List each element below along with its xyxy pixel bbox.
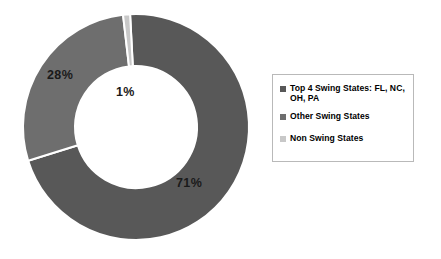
legend-item-top-4-swing-states[interactable]: Top 4 Swing States: FL, NC, OH, PA (280, 83, 407, 104)
data-label-other-swing-states: 28% (47, 68, 73, 82)
data-label-non-swing-states: 1% (116, 85, 135, 99)
donut-chart: 71% 28% 1% (0, 0, 265, 259)
chart-legend: Top 4 Swing States: FL, NC, OH, PA Other… (272, 74, 414, 162)
legend-label: Non Swing States (290, 133, 363, 143)
donut-slices (23, 14, 249, 240)
donut-slice-other-swing-states[interactable] (23, 15, 129, 161)
legend-item-other-swing-states[interactable]: Other Swing States (280, 111, 407, 121)
legend-label: Top 4 Swing States: FL, NC, OH, PA (290, 83, 407, 104)
legend-swatch-icon (280, 86, 286, 92)
legend-item-non-swing-states[interactable]: Non Swing States (280, 133, 407, 143)
legend-swatch-icon (280, 114, 286, 120)
donut-chart-svg (0, 0, 265, 259)
legend-label: Other Swing States (290, 111, 370, 121)
legend-swatch-icon (280, 136, 286, 142)
data-label-top-4-swing-states: 71% (176, 176, 202, 190)
